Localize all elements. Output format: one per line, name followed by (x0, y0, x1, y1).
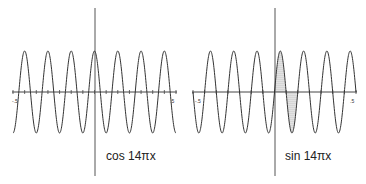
left-tick-min: -.5 (12, 98, 18, 104)
left-tick-max: .5 (170, 98, 174, 104)
sin-label: sin 14πx (285, 149, 331, 163)
right-tick-min: -.5 (195, 98, 201, 104)
sin-plot (192, 8, 357, 176)
right-tick-max: .5 (350, 98, 354, 104)
cos-label: cos 14πx (106, 149, 156, 163)
